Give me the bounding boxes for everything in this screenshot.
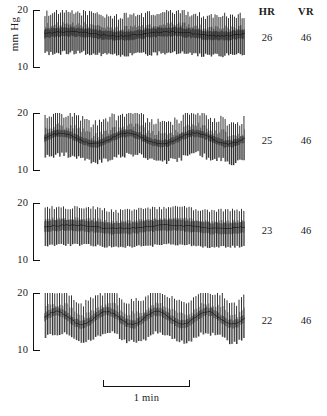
pressure-recording-figure: mm Hg HR VR 2010264620102546201023462010… (0, 0, 327, 416)
pressure-waveform-trace (44, 293, 245, 351)
ventilator-rate-value: 46 (291, 32, 321, 43)
y-axis-tick-top: 20 (8, 197, 28, 208)
y-axis-tick-top: 20 (8, 107, 28, 118)
y-axis-tick-bottom: 10 (8, 61, 28, 72)
y-axis-tick-top: 20 (8, 4, 28, 15)
heart-rate-value: 22 (252, 315, 282, 326)
pressure-waveform-trace (44, 203, 245, 261)
time-scale-bar-label: 1 min (103, 392, 190, 403)
heart-rate-value: 26 (252, 32, 282, 43)
y-axis-bracket (33, 113, 40, 171)
y-axis-tick-top: 20 (8, 287, 28, 298)
pressure-waveform-trace (44, 10, 245, 68)
heart-rate-value: 23 (252, 225, 282, 236)
pressure-waveform-trace (44, 113, 245, 171)
y-axis-tick-bottom: 10 (8, 344, 28, 355)
trace-panel: 20102246 (0, 293, 327, 351)
trace-panel: 20102646 (0, 10, 327, 68)
trace-panel: 20102546 (0, 113, 327, 171)
heart-rate-value: 25 (252, 135, 282, 146)
y-axis-bracket (33, 203, 40, 261)
y-axis-tick-bottom: 10 (8, 164, 28, 175)
y-axis-bracket (33, 293, 40, 351)
ventilator-rate-value: 46 (291, 315, 321, 326)
y-axis-bracket (33, 10, 40, 68)
trace-panel: 20102346 (0, 203, 327, 261)
y-axis-tick-bottom: 10 (8, 254, 28, 265)
ventilator-rate-value: 46 (291, 135, 321, 146)
time-scale-bar (103, 380, 190, 387)
ventilator-rate-value: 46 (291, 225, 321, 236)
